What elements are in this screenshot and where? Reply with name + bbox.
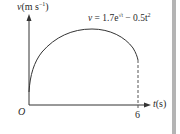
y-axis-close: ) xyxy=(45,1,48,12)
y-axis-arrow-icon xyxy=(27,14,32,21)
y-axis-label: v(m s−1) xyxy=(17,1,49,12)
eq-sq: 2 xyxy=(148,12,151,18)
eq-rhs: − 0.5t xyxy=(123,13,148,23)
origin-label: O xyxy=(18,106,25,117)
right-edge-bar xyxy=(172,0,176,134)
y-axis-unit: (m s xyxy=(21,1,39,12)
x-axis-arrow-icon xyxy=(144,103,151,108)
velocity-curve xyxy=(29,29,138,92)
x-axis-unit: (s) xyxy=(156,98,167,109)
eq-mid: = 1.7e xyxy=(92,13,118,23)
x-axis-label: t(s) xyxy=(153,98,166,109)
x-tick-6: 6 xyxy=(135,109,140,120)
equation-label: v = 1.7e√t − 0.5t2 xyxy=(88,12,151,23)
